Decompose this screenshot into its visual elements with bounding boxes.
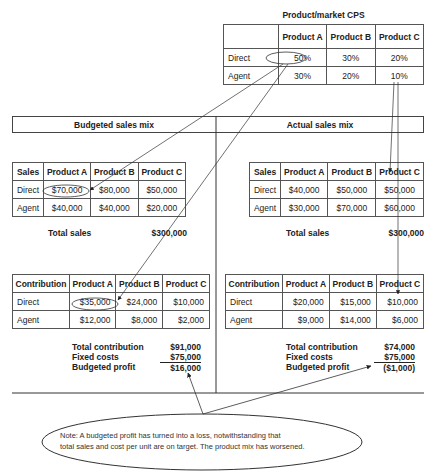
summary-value: $91,000: [160, 342, 201, 352]
cell: $70,000: [328, 199, 376, 217]
table-row: Direct 50% 30% 20%: [224, 49, 424, 67]
cell: $6,000: [376, 311, 423, 329]
col-header: Product B: [329, 275, 376, 293]
budgeted-sales-table: Sales Product A Product B Product C Dire…: [12, 162, 186, 217]
cell: $14,000: [329, 311, 376, 329]
cell: $40,000: [44, 199, 91, 217]
cell: $10,000: [163, 293, 210, 311]
cell: $20,000: [138, 199, 185, 217]
col-header: Product C: [163, 275, 210, 293]
budgeted-total-sales-label: Total sales: [48, 228, 91, 238]
actual-sales-mix-heading: Actual sales mix: [216, 120, 424, 130]
row-label: Direct: [13, 181, 44, 199]
cell: $60,000: [376, 199, 424, 217]
table-row: Agent $40,000 $40,000 $20,000: [13, 199, 186, 217]
col-header: Contribution: [226, 275, 283, 293]
cell: $10,000: [376, 293, 423, 311]
cell: $8,000: [116, 311, 163, 329]
arrow-note-to-actual-profit: [203, 366, 371, 414]
cell: $50,000: [328, 181, 376, 199]
cell: $50,000: [138, 181, 185, 199]
budgeted-sales-mix-heading: Budgeted sales mix: [12, 120, 216, 130]
cell: $40,000: [91, 199, 138, 217]
row-label: Direct: [226, 293, 283, 311]
table-row: Agent $9,000 $14,000 $6,000: [226, 311, 424, 329]
cps-table: Product A Product B Product C Direct 50%…: [223, 24, 424, 85]
cps-direct-c: 20%: [375, 49, 423, 67]
cps-header-product-c: Product C: [375, 25, 423, 49]
col-header: Product B: [116, 275, 163, 293]
cell: $35,000: [70, 293, 116, 311]
col-header: Sales: [250, 163, 281, 181]
cps-header-product-b: Product B: [327, 25, 375, 49]
budgeted-summary-values: $91,000 $75,000 $16,000: [160, 342, 201, 373]
table-row: Direct $40,000 $50,000 $50,000: [250, 181, 424, 199]
summary-value: $16,000: [160, 363, 201, 373]
summary-label: Total contribution: [286, 342, 358, 352]
row-label: Direct: [250, 181, 281, 199]
summary-value: $75,000: [160, 352, 201, 363]
cell: $9,000: [283, 311, 330, 329]
budgeted-summary-labels: Total contribution Fixed costs Budgeted …: [72, 342, 144, 372]
row-label: Agent: [226, 311, 283, 329]
row-label: Agent: [13, 311, 70, 329]
col-header: Product C: [138, 163, 185, 181]
budgeted-contribution-table: Contribution Product A Product B Product…: [12, 274, 210, 329]
table-row: Direct $20,000 $15,000 $10,000: [226, 293, 424, 311]
cell: $12,000: [70, 311, 116, 329]
cps-direct-a: 50%: [279, 49, 327, 67]
row-label: Agent: [13, 199, 44, 217]
actual-sales-table: Sales Product A Product B Product C Dire…: [249, 162, 424, 217]
row-label: Agent: [250, 199, 281, 217]
col-header: Product A: [70, 275, 116, 293]
cell: $24,000: [116, 293, 163, 311]
summary-label: Fixed costs: [286, 352, 358, 362]
budgeted-total-sales-value: $300,000: [140, 228, 187, 238]
table-row: Agent $30,000 $70,000 $60,000: [250, 199, 424, 217]
table-row: Agent 30% 20% 10%: [224, 67, 424, 85]
col-header: Product A: [281, 163, 328, 181]
col-header: Product C: [376, 163, 424, 181]
cps-header-product-a: Product A: [279, 25, 327, 49]
col-header: Product A: [44, 163, 91, 181]
actual-total-sales-label: Total sales: [286, 228, 329, 238]
summary-value: $75,000: [374, 352, 415, 363]
col-header: Sales: [13, 163, 44, 181]
actual-contribution-table: Contribution Product A Product B Product…: [225, 274, 424, 329]
summary-value: $74,000: [374, 342, 415, 352]
cps-header-blank: [224, 25, 279, 49]
cps-agent-b: 20%: [327, 67, 375, 85]
cell: $70,000: [44, 181, 91, 199]
table-row: Agent $12,000 $8,000 $2,000: [13, 311, 210, 329]
note-line-1: Note: A budgeted profit has turned into …: [60, 430, 360, 441]
row-label: Agent: [224, 67, 279, 85]
cell: $30,000: [281, 199, 328, 217]
row-label: Direct: [224, 49, 279, 67]
actual-summary-values: $74,000 $75,000 ($1,000): [374, 342, 415, 373]
cell: $80,000: [91, 181, 138, 199]
col-header: Product B: [328, 163, 376, 181]
summary-label: Budgeted profit: [286, 362, 358, 372]
summary-label: Total contribution: [72, 342, 144, 352]
summary-label: Fixed costs: [72, 352, 144, 362]
cps-title: Product/market CPS: [223, 10, 424, 20]
actual-summary-labels: Total contribution Fixed costs Budgeted …: [286, 342, 358, 372]
arrow-note-to-budgeted-profit: [188, 373, 203, 414]
cell: $15,000: [329, 293, 376, 311]
note-line-2: total sales and cost per unit are on tar…: [60, 441, 360, 452]
cps-agent-a: 30%: [279, 67, 327, 85]
cps-direct-b: 30%: [327, 49, 375, 67]
table-row: Direct $35,000 $24,000 $10,000: [13, 293, 210, 311]
cell: $2,000: [163, 311, 210, 329]
cell: $20,000: [283, 293, 330, 311]
col-header: Product C: [376, 275, 423, 293]
note-text: Note: A budgeted profit has turned into …: [60, 430, 360, 452]
table-row: Direct $70,000 $80,000 $50,000: [13, 181, 186, 199]
cell: $50,000: [376, 181, 424, 199]
summary-value: ($1,000): [374, 363, 415, 373]
summary-label: Budgeted profit: [72, 362, 144, 372]
col-header: Contribution: [13, 275, 70, 293]
row-label: Direct: [13, 293, 70, 311]
actual-total-sales-value: $300,000: [376, 228, 424, 238]
col-header: Product A: [283, 275, 330, 293]
